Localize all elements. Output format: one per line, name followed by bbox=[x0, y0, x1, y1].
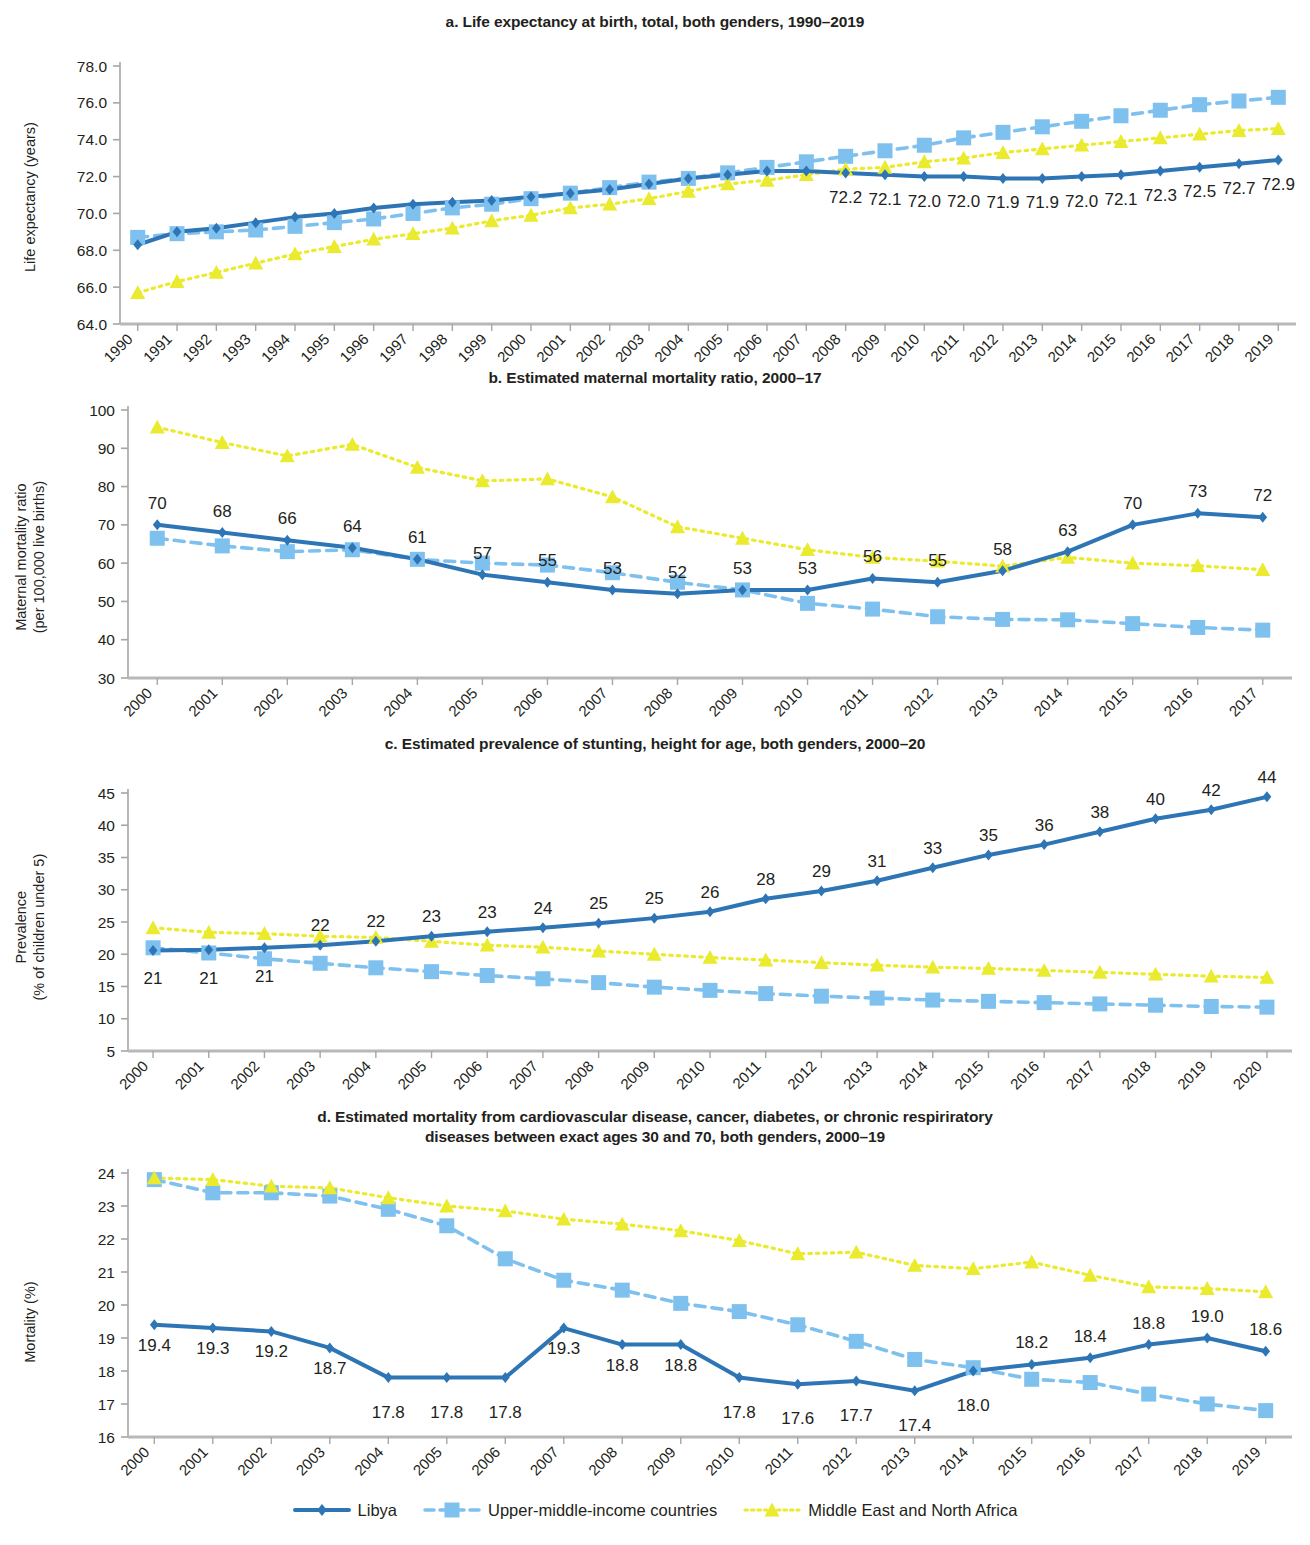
x-tick-label: 2007 bbox=[575, 684, 611, 720]
diamond-marker bbox=[1203, 1333, 1212, 1344]
x-tick-label: 2015 bbox=[1095, 684, 1131, 720]
legend-item-0[interactable]: Libya bbox=[293, 1499, 397, 1521]
y-tick-label: 18 bbox=[98, 1363, 115, 1380]
diamond-marker bbox=[1027, 1359, 1036, 1370]
x-tick-label: 1998 bbox=[415, 330, 451, 362]
data-label: 18.7 bbox=[313, 1359, 346, 1378]
x-tick-label: 2005 bbox=[690, 330, 726, 362]
x-tick-label: 2000 bbox=[494, 330, 530, 362]
square-marker bbox=[1024, 1372, 1039, 1387]
x-tick-label: 2016 bbox=[1007, 1058, 1043, 1094]
diamond-marker bbox=[150, 1319, 159, 1330]
panel-b-title: b. Estimated maternal mortality ratio, 2… bbox=[0, 362, 1310, 388]
data-label: 72.0 bbox=[947, 191, 980, 210]
panel-b-svg: 3040506070809010020002001200220032004200… bbox=[0, 388, 1310, 726]
y-tick-label: 64.0 bbox=[77, 315, 108, 332]
x-tick-label: 2013 bbox=[877, 1443, 913, 1479]
square-marker bbox=[1083, 1375, 1098, 1390]
square-marker bbox=[838, 149, 853, 164]
x-tick-label: 2010 bbox=[770, 684, 806, 720]
x-tick-label: 2014 bbox=[936, 1443, 972, 1479]
x-tick-label: 2011 bbox=[761, 1443, 796, 1478]
x-tick-label: 2019 bbox=[1174, 1058, 1210, 1094]
data-label: 23 bbox=[478, 903, 497, 922]
square-marker bbox=[930, 609, 945, 624]
diamond-marker bbox=[873, 876, 882, 887]
diamond-marker bbox=[1095, 827, 1104, 838]
x-tick-label: 1990 bbox=[100, 330, 136, 362]
square-marker bbox=[368, 961, 383, 976]
diamond-marker bbox=[1274, 154, 1283, 165]
square-marker bbox=[1204, 999, 1219, 1014]
y-tick-label: 25 bbox=[98, 914, 115, 931]
data-label: 61 bbox=[408, 528, 427, 547]
diamond-marker bbox=[852, 1376, 861, 1387]
square-marker bbox=[556, 1273, 571, 1288]
data-label: 66 bbox=[278, 509, 297, 528]
legend-label: Libya bbox=[358, 1501, 397, 1520]
x-tick-label: 2006 bbox=[450, 1058, 486, 1094]
square-marker bbox=[1092, 997, 1107, 1012]
triangle-marker bbox=[540, 471, 555, 485]
diamond-marker bbox=[910, 1385, 919, 1396]
square-marker bbox=[732, 1304, 747, 1319]
square-marker bbox=[1231, 93, 1246, 108]
square-marker bbox=[917, 138, 932, 153]
diamond-marker bbox=[594, 918, 603, 929]
data-label: 17.4 bbox=[898, 1416, 931, 1435]
y-tick-label: 72.0 bbox=[77, 168, 108, 185]
diamond-marker bbox=[999, 173, 1008, 184]
square-marker bbox=[1035, 119, 1050, 134]
y-tick-label: 100 bbox=[89, 401, 115, 418]
diamond-marker bbox=[218, 527, 227, 538]
y-tick-label: 80 bbox=[98, 478, 116, 495]
data-label: 72 bbox=[1253, 486, 1272, 505]
data-label: 53 bbox=[733, 559, 752, 578]
diamond-marker bbox=[543, 576, 552, 587]
series-line-middle-east-and-north-africa bbox=[154, 1178, 1265, 1292]
diamond-marker bbox=[208, 1323, 217, 1334]
diamond-marker bbox=[1258, 511, 1267, 522]
data-label: 72.9 bbox=[1262, 175, 1295, 194]
panel-a-plot: Life expectancy (years) 64.066.068.070.0… bbox=[0, 32, 1310, 362]
diamond-marker bbox=[442, 1372, 451, 1383]
panel-a-svg: 64.066.068.070.072.074.076.078.019901991… bbox=[0, 32, 1310, 362]
data-label: 52 bbox=[668, 562, 687, 581]
square-marker bbox=[1113, 108, 1128, 123]
data-label: 23 bbox=[422, 908, 441, 927]
square-marker bbox=[1255, 622, 1270, 637]
panel-d-plot: Mortality (%) 16171819202122232420002001… bbox=[0, 1147, 1310, 1497]
legend-item-1[interactable]: Upper-middle-income countries bbox=[423, 1499, 717, 1521]
data-label: 18.2 bbox=[1015, 1334, 1048, 1353]
square-marker bbox=[1271, 90, 1286, 105]
x-tick-label: 2015 bbox=[994, 1443, 1030, 1479]
x-tick-label: 2003 bbox=[292, 1443, 328, 1479]
y-tick-label: 20 bbox=[98, 1297, 116, 1314]
y-tick-label: 50 bbox=[98, 593, 116, 610]
panel-a-y-axis-label: Life expectancy (years) bbox=[0, 32, 60, 362]
data-label: 25 bbox=[589, 895, 608, 914]
diamond-marker bbox=[673, 588, 682, 599]
diamond-marker bbox=[1063, 546, 1072, 557]
x-tick-label: 1991 bbox=[140, 330, 176, 362]
x-tick-label: 2015 bbox=[1083, 330, 1119, 362]
data-label: 71.9 bbox=[986, 193, 1019, 212]
x-tick-label: 2007 bbox=[505, 1058, 541, 1094]
data-label: 73 bbox=[1188, 482, 1207, 501]
x-tick-label: 2001 bbox=[185, 684, 221, 720]
y-tick-label: 70 bbox=[98, 516, 116, 533]
square-marker bbox=[1060, 612, 1075, 627]
triangle-marker bbox=[1255, 562, 1270, 576]
legend-item-2[interactable]: Middle East and North Africa bbox=[743, 1499, 1017, 1521]
x-tick-label: 2017 bbox=[1162, 330, 1198, 362]
y-tick-label: 24 bbox=[98, 1165, 116, 1182]
panel-c-svg: 5101520253035404520002001200220032004200… bbox=[0, 753, 1310, 1101]
square-marker bbox=[366, 211, 381, 226]
x-tick-label: 2006 bbox=[510, 684, 546, 720]
x-tick-label: 2016 bbox=[1053, 1443, 1089, 1479]
square-marker bbox=[445, 1503, 460, 1518]
data-label: 22 bbox=[311, 917, 330, 936]
x-tick-label: 2005 bbox=[409, 1443, 445, 1479]
diamond-marker bbox=[1128, 519, 1137, 530]
legend-label: Upper-middle-income countries bbox=[488, 1501, 717, 1520]
